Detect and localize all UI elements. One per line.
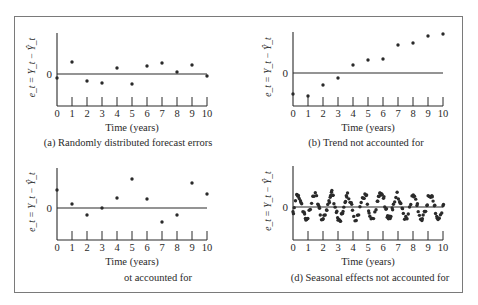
- x-tick-label: 6: [380, 242, 385, 253]
- data-point: [416, 202, 419, 205]
- data-point: [292, 212, 295, 215]
- x-tick-label: 1: [69, 242, 74, 253]
- data-point: [293, 206, 296, 209]
- x-tick-label: 6: [144, 242, 149, 253]
- y-axis-label: e_t = Y_t − Ŷ_t: [26, 38, 37, 98]
- x-tick-label: 9: [425, 242, 430, 253]
- data-point: [130, 177, 133, 180]
- residual-plots-figure: 0123456789100e_t = Y_t − Ŷ_tTime (years)…: [0, 0, 478, 305]
- x-axis-label: Time (years): [341, 122, 395, 134]
- data-point: [411, 41, 414, 44]
- data-point: [358, 205, 361, 208]
- data-point: [342, 205, 345, 208]
- data-point: [421, 213, 424, 216]
- panel-d-seasonal: 0123456789100e_t = Y_t − Ŷ_tTime (years)…: [262, 166, 450, 284]
- panel-caption: ot accounted for: [124, 272, 193, 283]
- data-point: [100, 81, 103, 84]
- y-zero-label: 0: [47, 202, 53, 214]
- data-point: [372, 217, 375, 220]
- data-point: [332, 202, 335, 205]
- data-point: [322, 217, 325, 220]
- data-point: [441, 32, 444, 35]
- data-point: [346, 191, 349, 194]
- data-point: [396, 43, 399, 46]
- data-point: [357, 213, 360, 216]
- y-zero-label: 0: [47, 68, 53, 80]
- data-point: [344, 200, 347, 203]
- data-point: [438, 217, 441, 220]
- x-axis-label: Time (years): [341, 256, 395, 268]
- data-point: [355, 219, 358, 222]
- data-point: [315, 194, 318, 197]
- x-tick-label: 0: [290, 242, 295, 253]
- data-point: [426, 34, 429, 37]
- data-point: [336, 76, 339, 79]
- x-tick-label: 4: [114, 242, 120, 253]
- data-point: [440, 211, 443, 214]
- data-point: [347, 197, 350, 200]
- data-point: [175, 70, 178, 73]
- data-point: [328, 201, 331, 204]
- data-point: [115, 196, 118, 199]
- y-axis-label: e_t = Y_t − Ŷ_t: [262, 37, 273, 97]
- data-point: [421, 217, 424, 220]
- data-point: [205, 74, 208, 77]
- data-point: [318, 207, 321, 210]
- y-axis-label: e_t = Y_t − Ŷ_t: [26, 172, 37, 232]
- data-point: [335, 210, 338, 213]
- panel-caption: (d) Seasonal effects not accounted for: [291, 272, 450, 284]
- data-point: [381, 57, 384, 60]
- data-point: [297, 194, 300, 197]
- panel-b-trend: 0123456789100e_t = Y_t − Ŷ_tTime (years)…: [262, 32, 448, 149]
- data-point: [300, 202, 303, 205]
- x-tick-label: 9: [425, 108, 430, 119]
- data-point: [350, 203, 353, 206]
- x-tick-label: 10: [202, 242, 213, 253]
- x-tick-label: 2: [84, 242, 89, 253]
- data-point: [376, 200, 379, 203]
- data-point: [70, 60, 73, 63]
- data-point: [55, 188, 58, 191]
- data-point: [303, 212, 306, 215]
- y-zero-label: 0: [283, 67, 289, 79]
- x-tick-label: 9: [189, 242, 194, 253]
- data-point: [330, 189, 333, 192]
- data-point: [393, 200, 396, 203]
- y-axis-label: e_t = Y_t − Ŷ_t: [262, 171, 273, 231]
- data-point: [366, 58, 369, 61]
- data-point: [352, 215, 355, 218]
- data-point: [413, 194, 416, 197]
- x-tick-label: 2: [84, 108, 89, 119]
- data-point: [85, 79, 88, 82]
- x-tick-label: 7: [395, 242, 400, 253]
- data-point: [433, 204, 436, 207]
- x-tick-label: 9: [189, 108, 194, 119]
- data-point: [367, 211, 370, 214]
- x-tick-label: 3: [99, 242, 104, 253]
- data-point: [414, 197, 417, 200]
- data-point: [366, 203, 369, 206]
- data-point: [426, 203, 429, 206]
- x-tick-label: 7: [159, 242, 164, 253]
- data-point: [306, 217, 309, 220]
- data-point: [309, 208, 312, 211]
- data-point: [339, 220, 342, 223]
- x-tick-label: 4: [350, 108, 356, 119]
- data-point: [418, 214, 421, 217]
- data-point: [391, 208, 394, 211]
- data-point: [291, 92, 294, 95]
- x-tick-label: 10: [202, 108, 213, 119]
- data-point: [319, 213, 322, 216]
- data-point: [399, 202, 402, 205]
- data-point: [190, 181, 193, 184]
- data-point: [310, 202, 313, 205]
- data-point: [55, 76, 58, 79]
- data-point: [294, 199, 297, 202]
- x-tick-label: 5: [129, 108, 134, 119]
- x-tick-label: 3: [99, 108, 104, 119]
- x-tick-label: 10: [438, 108, 449, 119]
- data-point: [160, 61, 163, 64]
- data-point: [405, 217, 408, 220]
- data-point: [333, 205, 336, 208]
- x-tick-label: 4: [350, 242, 356, 253]
